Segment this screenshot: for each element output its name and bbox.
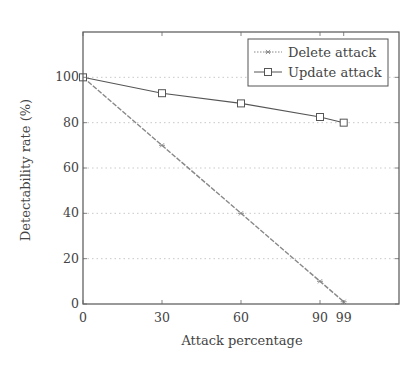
square-marker <box>238 100 245 107</box>
legend-label: Update attack <box>288 65 382 80</box>
y-tick-label: 80 <box>63 115 79 130</box>
star-marker <box>238 211 244 215</box>
line-chart: 030609099020406080100 Attack percentage … <box>0 0 420 372</box>
legend-label: Delete attack <box>288 45 376 60</box>
series-delete-attack <box>80 75 347 304</box>
star-marker <box>159 143 165 147</box>
y-axis-label: Detectability rate (%) <box>18 99 33 241</box>
y-tick-label: 60 <box>63 160 79 175</box>
x-axis-label: Attack percentage <box>180 333 303 348</box>
y-tick-label: 20 <box>63 251 79 266</box>
x-tick-label: 0 <box>79 310 87 325</box>
x-tick-label: 30 <box>154 310 170 325</box>
x-tick-label: 60 <box>233 310 249 325</box>
square-marker <box>265 69 272 76</box>
legend: Delete attackUpdate attack <box>248 39 388 86</box>
series-lines <box>80 74 348 304</box>
star-marker <box>317 279 323 283</box>
y-tick-label: 40 <box>63 205 79 220</box>
x-tick-label: 99 <box>336 310 352 325</box>
y-tick-label: 0 <box>71 296 79 311</box>
square-marker <box>317 114 324 121</box>
x-tick-label: 90 <box>312 310 328 325</box>
square-marker <box>340 119 347 126</box>
square-marker <box>159 90 166 97</box>
y-tick-label: 100 <box>55 69 79 84</box>
